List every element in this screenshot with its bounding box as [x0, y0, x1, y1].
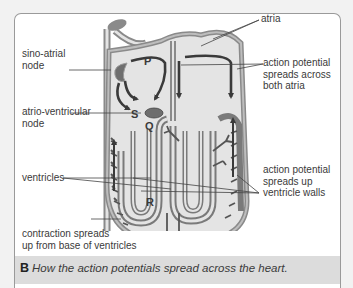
heart-outline: [107, 32, 247, 231]
label-line: atrio-ventricular: [22, 106, 91, 118]
caption-bar: BHow the action potentials spread across…: [14, 256, 341, 284]
label-line: atria: [261, 13, 280, 25]
letter-p: P: [144, 55, 151, 67]
figure-letter: B: [20, 261, 29, 275]
label-line: ventricles: [22, 172, 64, 184]
label-atrio-ventricular-node: atrio-ventricular node: [22, 106, 91, 129]
label-line: up from base of ventricles: [22, 240, 137, 252]
label-line: node: [22, 118, 91, 130]
label-action-potential-atria: action potential spreads across both atr…: [263, 57, 331, 92]
label-atria: atria: [261, 13, 280, 25]
label-ventricles: ventricles: [22, 172, 64, 184]
label-action-potential-ventricles: action potential spreads up ventricle wa…: [263, 164, 330, 199]
figure-caption-text: How the action potentials spread across …: [32, 262, 288, 274]
letter-s: S: [131, 108, 138, 120]
label-line: contraction spreads: [22, 228, 137, 240]
label-contraction-spreads: contraction spreads up from base of vent…: [22, 228, 137, 251]
label-line: spreads up: [263, 176, 330, 188]
label-line: sino-atrial: [22, 48, 65, 60]
label-sino-atrial-node: sino-atrial node: [22, 48, 65, 71]
label-line: both atria: [263, 80, 331, 92]
label-line: action potential: [263, 164, 330, 176]
atrio-ventricular-node-shape: [145, 108, 163, 118]
figure-caption: BHow the action potentials spread across…: [20, 261, 288, 275]
letter-q: Q: [145, 120, 154, 132]
label-line: ventricle walls: [263, 187, 330, 199]
label-line: node: [22, 60, 65, 72]
label-line: spreads across: [263, 69, 331, 81]
label-line: action potential: [263, 57, 331, 69]
letter-r: R: [146, 196, 154, 208]
